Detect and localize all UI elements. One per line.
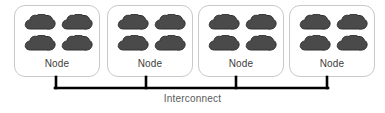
node-label: Node <box>199 58 283 69</box>
node-box-1: Node <box>14 5 100 77</box>
processor-grid <box>21 12 95 54</box>
cloud-icon <box>208 14 240 31</box>
cloud-icon <box>336 14 368 31</box>
processor-grid <box>205 12 279 54</box>
processor-grid <box>296 12 370 54</box>
interconnect-label: Interconnect <box>0 93 385 104</box>
node-box-4: Node <box>289 5 375 77</box>
cloud-icon <box>117 14 149 31</box>
cloud-icon <box>61 14 93 31</box>
cloud-icon <box>117 35 149 52</box>
node-label: Node <box>15 58 99 69</box>
cloud-icon <box>245 14 277 31</box>
cloud-icon <box>24 14 56 31</box>
cloud-icon <box>154 14 186 31</box>
cloud-icon <box>299 14 331 31</box>
processor-grid <box>114 12 188 54</box>
node-label: Node <box>108 58 192 69</box>
cloud-icon <box>154 35 186 52</box>
cloud-icon <box>61 35 93 52</box>
cloud-icon <box>24 35 56 52</box>
cloud-icon <box>336 35 368 52</box>
cloud-icon <box>299 35 331 52</box>
cloud-icon <box>208 35 240 52</box>
node-box-2: Node <box>107 5 193 77</box>
node-box-3: Node <box>198 5 284 77</box>
node-label: Node <box>290 58 374 69</box>
cluster-interconnect-diagram: Node Node Node Node <box>0 0 385 113</box>
cloud-icon <box>245 35 277 52</box>
